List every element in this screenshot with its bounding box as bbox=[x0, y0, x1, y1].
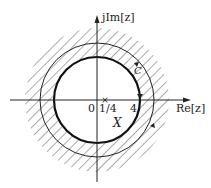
pole-inner-label: 1/4 bbox=[99, 102, 117, 115]
contour-label: C bbox=[134, 65, 142, 76]
imag-axis-label: jIm[z] bbox=[100, 11, 135, 24]
z-plane-diagram: × jIm[z] Re[z] 0 1/4 4 C X bbox=[0, 0, 211, 188]
region-label: X bbox=[112, 116, 122, 130]
origin-label: 0 bbox=[88, 102, 95, 115]
pole-outer-label: 4 bbox=[130, 102, 137, 115]
real-axis-label: Re[z] bbox=[176, 102, 205, 115]
imag-axis-arrow-icon bbox=[95, 15, 100, 23]
